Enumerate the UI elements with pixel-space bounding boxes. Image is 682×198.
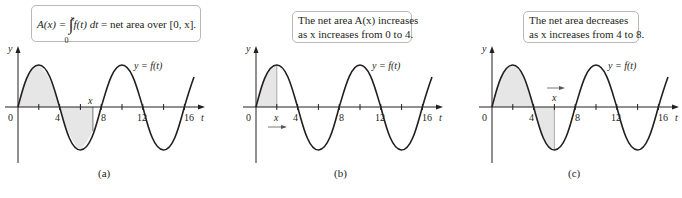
tick-label-4: 4 — [529, 112, 534, 123]
arrow-right-icon — [547, 86, 565, 90]
tick-label-8: 8 — [101, 112, 106, 123]
y-axis-arrow-icon — [254, 46, 259, 53]
tick-label-12: 12 — [375, 112, 385, 123]
tick-label-16: 16 — [658, 112, 668, 123]
tick-label-12: 12 — [137, 112, 147, 123]
curve-label: y = f(t) — [133, 60, 163, 72]
x-marker-label: x — [273, 112, 279, 123]
x-marker-label: x — [551, 92, 557, 103]
shaded-net-area — [256, 65, 277, 107]
tick-label-4: 4 — [293, 112, 298, 123]
caption-b: (b) — [334, 167, 347, 179]
tick-label-16: 16 — [422, 112, 432, 123]
t-axis-arrow-icon — [198, 105, 205, 110]
y-axis-label: y — [245, 43, 251, 54]
y-axis-arrow-icon — [490, 46, 495, 53]
t-axis-arrow-icon — [672, 105, 679, 110]
y-axis-arrow-icon — [16, 46, 21, 53]
panel-a: A(x) = ∫x0f(t) dt = net area over [0, x]… — [0, 0, 230, 198]
graph-b: 0 x 4 8 12 16 t y y = f(t) — [238, 0, 468, 198]
x-marker-label: x — [87, 95, 93, 106]
curve-label: y = f(t) — [607, 60, 637, 72]
y-axis-label: y — [7, 43, 13, 54]
caption-a: (a) — [98, 167, 110, 179]
t-axis-label: t — [201, 112, 204, 123]
tick-label-8: 8 — [575, 112, 580, 123]
t-axis-label: t — [675, 112, 678, 123]
tick-label-16: 16 — [184, 112, 194, 123]
origin-label: 0 — [8, 112, 13, 123]
tick-label-8: 8 — [339, 112, 344, 123]
y-axis-label: y — [481, 43, 487, 54]
arrow-right-icon — [268, 125, 287, 129]
caption-c: (c) — [568, 167, 580, 179]
t-axis-arrow-icon — [436, 105, 443, 110]
tick-label-12: 12 — [611, 112, 621, 123]
tick-label-4: 4 — [55, 112, 60, 123]
graph-a: 0 4 8 12 16 t y x y = f(t) — [0, 0, 230, 198]
panel-c: The net area decreases as x increases fr… — [474, 0, 682, 198]
t-axis-label: t — [439, 112, 442, 123]
origin-label: 0 — [482, 112, 487, 123]
origin-label: 0 — [246, 112, 251, 123]
curve-label: y = f(t) — [371, 60, 401, 72]
panel-b: The net area A(x) increases as x increas… — [238, 0, 468, 198]
